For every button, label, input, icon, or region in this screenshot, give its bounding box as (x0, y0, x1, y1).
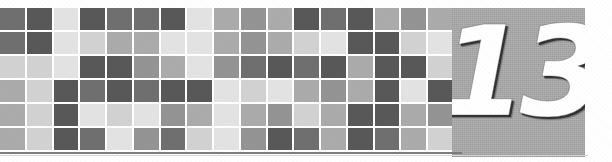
mosaic-tile (294, 80, 319, 102)
mosaic-tile (214, 32, 239, 54)
mosaic-tile (0, 8, 25, 30)
mosaic-tile (187, 128, 212, 150)
mosaic-tile (107, 56, 132, 78)
mosaic-tile (161, 8, 186, 30)
mosaic-tile (187, 32, 212, 54)
mosaic-tile (348, 128, 373, 150)
mosaic-tile (401, 8, 426, 30)
mosaic-tile (54, 128, 79, 150)
mosaic-tile (214, 8, 239, 30)
mosaic-tile (294, 56, 319, 78)
mosaic-tile (0, 104, 25, 126)
mosaic-tile (268, 32, 293, 54)
mosaic-tile (321, 128, 346, 150)
mosaic-tile (241, 32, 266, 54)
mosaic-tile (428, 56, 453, 78)
mosaic-tile (134, 128, 159, 150)
mosaic-tile (27, 128, 52, 150)
mosaic-tile (294, 128, 319, 150)
mosaic-tile (27, 8, 52, 30)
mosaic-tile (294, 8, 319, 30)
mosaic-tile (375, 128, 400, 150)
mosaic-tile (107, 32, 132, 54)
mosaic-tile (241, 56, 266, 78)
mosaic-tile (268, 128, 293, 150)
mosaic-tile (348, 56, 373, 78)
mosaic-tile (321, 8, 346, 30)
mosaic-tile (321, 104, 346, 126)
mosaic-tile (134, 80, 159, 102)
mosaic-tile (161, 80, 186, 102)
mosaic-tile (80, 8, 105, 30)
mosaic-tile (428, 128, 453, 150)
mosaic-tile (321, 32, 346, 54)
mosaic-tile (54, 56, 79, 78)
mosaic-tile (0, 80, 25, 102)
mosaic-tile (161, 128, 186, 150)
mosaic-tile (161, 104, 186, 126)
mosaic-tile (375, 104, 400, 126)
mosaic-tile (401, 56, 426, 78)
mosaic-tile (294, 32, 319, 54)
mosaic-tile (27, 32, 52, 54)
mosaic-tile (107, 104, 132, 126)
mosaic-tile (348, 8, 373, 30)
mosaic-tile (107, 8, 132, 30)
mosaic-tile (375, 8, 400, 30)
mosaic-tile (375, 56, 400, 78)
mosaic-tile (54, 104, 79, 126)
mosaic-tile (214, 56, 239, 78)
mosaic-tile (0, 128, 25, 150)
mosaic-tile (428, 80, 453, 102)
chapter-number: 13 (454, 8, 585, 152)
mosaic-tile (241, 104, 266, 126)
mosaic-grid (0, 8, 453, 150)
mosaic-tile (161, 56, 186, 78)
mosaic-tile (54, 32, 79, 54)
mosaic-tile (161, 32, 186, 54)
mosaic-tile (401, 32, 426, 54)
mosaic-tile (241, 128, 266, 150)
mosaic-tile (214, 128, 239, 150)
mosaic-tile (80, 56, 105, 78)
mosaic-tile (54, 80, 79, 102)
mosaic-tile (134, 56, 159, 78)
mosaic-tile (107, 80, 132, 102)
mosaic-tile (348, 32, 373, 54)
bottom-rule-fade (0, 155, 588, 156)
mosaic-tile (187, 80, 212, 102)
mosaic-tile (27, 80, 52, 102)
mosaic-tile (348, 104, 373, 126)
mosaic-tile (241, 8, 266, 30)
mosaic-tile (27, 56, 52, 78)
mosaic-tile (321, 56, 346, 78)
mosaic-tile (401, 104, 426, 126)
mosaic-tile (321, 80, 346, 102)
mosaic-tile (241, 80, 266, 102)
mosaic-tile (214, 80, 239, 102)
mosaic-tile (187, 104, 212, 126)
chapter-number-plate: 13 (452, 8, 585, 157)
mosaic-tile (294, 104, 319, 126)
mosaic-tile (107, 128, 132, 150)
mosaic-tile (268, 104, 293, 126)
bottom-rule (0, 152, 462, 154)
mosaic-tile (54, 8, 79, 30)
mosaic-tile (134, 104, 159, 126)
mosaic-tile (428, 8, 453, 30)
mosaic-tile (401, 80, 426, 102)
mosaic-tile (375, 32, 400, 54)
mosaic-tile (187, 56, 212, 78)
mosaic-tile (0, 56, 25, 78)
mosaic-tile (428, 104, 453, 126)
mosaic-tile (214, 104, 239, 126)
mosaic-tile (187, 8, 212, 30)
mosaic-tile (27, 104, 52, 126)
mosaic-tile (80, 104, 105, 126)
chapter-opener-banner: 13 (0, 0, 612, 162)
mosaic-tile (134, 8, 159, 30)
mosaic-tile (428, 32, 453, 54)
mosaic-tile (348, 80, 373, 102)
mosaic-tile (80, 128, 105, 150)
mosaic-tile (268, 56, 293, 78)
